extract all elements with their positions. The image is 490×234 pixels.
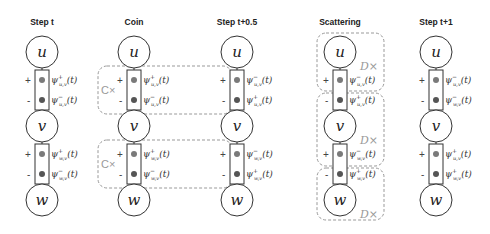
plus-sign: + <box>117 149 123 160</box>
plus-sign: + <box>323 75 329 86</box>
plus-port-dot <box>234 151 240 157</box>
vertex-label: v <box>432 117 441 135</box>
amplitude-label: ψ−u,v(t) <box>246 73 273 87</box>
column-4: Step t+1+-ψ−u,v(t)ψ−w,v(t)+-ψ+u,v(t)ψ+w,… <box>419 17 472 216</box>
vertex-label: u <box>37 43 47 61</box>
vertex-label: v <box>336 117 345 135</box>
plus-sign: + <box>25 149 31 160</box>
minus-sign: - <box>325 169 328 180</box>
column-title: Scattering <box>319 17 361 27</box>
amplitude-label: ψ+u,v(t) <box>246 93 273 107</box>
scattering-operator-label: D× <box>359 60 378 73</box>
plus-sign: + <box>323 149 329 160</box>
amplitude-label: ψ+w,v(t) <box>349 167 376 181</box>
minus-sign: - <box>119 95 122 106</box>
column-title: Step t <box>30 17 54 27</box>
plus-sign: + <box>419 75 425 86</box>
vertex-label: w <box>231 191 244 209</box>
minus-sign: - <box>27 95 30 106</box>
amplitude-label: ψ−u,v(t) <box>349 73 376 87</box>
amplitude-label: ψ−w,v(t) <box>143 167 170 181</box>
minus-sign: - <box>421 95 424 106</box>
vertex-label: w <box>36 191 49 209</box>
vertex-label: v <box>233 117 242 135</box>
plus-sign: + <box>220 75 226 86</box>
edge-port-box <box>35 144 49 184</box>
plus-port-dot <box>337 151 343 157</box>
amplitude-label: ψ−w,v(t) <box>51 167 78 181</box>
amplitude-label: ψ−u,v(t) <box>143 93 170 107</box>
vertex-label: v <box>38 117 47 135</box>
scattering-operator-label: D× <box>359 134 378 147</box>
scattering-operator-label: D× <box>359 208 378 221</box>
vertex-label: u <box>129 43 139 61</box>
vertex-label: w <box>430 191 443 209</box>
amplitude-label: ψ+w,v(t) <box>445 167 472 181</box>
minus-sign: - <box>27 169 30 180</box>
minus-sign: - <box>119 169 122 180</box>
vertex-label: w <box>334 191 347 209</box>
plus-sign: + <box>117 75 123 86</box>
plus-port-dot <box>39 77 45 83</box>
minus-sign: - <box>222 95 225 106</box>
amplitude-label: ψ+u,v(t) <box>143 73 170 87</box>
edge-port-box <box>429 144 443 184</box>
minus-port-dot <box>234 171 240 177</box>
plus-port-dot <box>131 77 137 83</box>
plus-port-dot <box>337 77 343 83</box>
plus-port-dot <box>131 151 137 157</box>
amplitude-label: ψ+w,v(t) <box>143 147 170 161</box>
amplitude-label: ψ−w,v(t) <box>445 93 472 107</box>
edge-port-box <box>429 70 443 110</box>
amplitude-label: ψ+w,v(t) <box>246 167 273 181</box>
amplitude-label: ψ+u,v(t) <box>349 93 376 107</box>
plus-port-dot <box>234 77 240 83</box>
amplitude-label: ψ+w,v(t) <box>51 147 78 161</box>
minus-port-dot <box>337 97 343 103</box>
plus-sign: + <box>25 75 31 86</box>
edge-port-box <box>127 70 141 110</box>
amplitude-label: ψ−u,v(t) <box>51 93 78 107</box>
plus-port-dot <box>433 77 439 83</box>
column-title: Step t+0.5 <box>217 17 258 27</box>
minus-port-dot <box>39 171 45 177</box>
edge-port-box <box>230 144 244 184</box>
minus-sign: - <box>325 95 328 106</box>
amplitude-label: ψ−w,v(t) <box>349 147 376 161</box>
plus-sign: + <box>220 149 226 160</box>
vertex-label: u <box>335 43 345 61</box>
edge-port-box <box>230 70 244 110</box>
minus-port-dot <box>39 97 45 103</box>
vertex-label: u <box>431 43 441 61</box>
column-title: Coin <box>125 17 144 27</box>
edge-port-box <box>333 70 347 110</box>
coin-operator-box <box>98 140 232 188</box>
vertex-label: w <box>128 191 141 209</box>
plus-port-dot <box>39 151 45 157</box>
minus-port-dot <box>433 97 439 103</box>
minus-sign: - <box>222 169 225 180</box>
column-2: Step t+0.5+-ψ−u,v(t)ψ+u,v(t)+-ψ−w,v(t)ψ+… <box>217 17 274 216</box>
plus-sign: + <box>419 149 425 160</box>
coin-operator-label: C× <box>101 84 115 96</box>
minus-port-dot <box>131 171 137 177</box>
column-0: Step t+-ψ+u,v(t)ψ−u,v(t)+-ψ+w,v(t)ψ−w,v(… <box>25 17 78 216</box>
edge-port-box <box>333 144 347 184</box>
edge-port-box <box>127 144 141 184</box>
amplitude-label: ψ+u,v(t) <box>445 147 472 161</box>
vertex-label: v <box>130 117 139 135</box>
amplitude-label: ψ+u,v(t) <box>51 73 78 87</box>
amplitude-label: ψ−u,v(t) <box>445 73 472 87</box>
minus-port-dot <box>433 171 439 177</box>
minus-port-dot <box>234 97 240 103</box>
minus-sign: - <box>421 169 424 180</box>
edge-port-box <box>35 70 49 110</box>
coin-operator-label: C× <box>101 158 115 170</box>
vertex-label: u <box>232 43 242 61</box>
amplitude-label: ψ−w,v(t) <box>246 147 273 161</box>
quantum-walk-diagram: Step t+-ψ+u,v(t)ψ−u,v(t)+-ψ+w,v(t)ψ−w,v(… <box>0 0 490 234</box>
coin-operator-box <box>98 66 232 114</box>
plus-port-dot <box>433 151 439 157</box>
column-1: CoinC×C×+-ψ+u,v(t)ψ−u,v(t)+-ψ+w,v(t)ψ−w,… <box>98 17 232 216</box>
column-title: Step t+1 <box>419 17 453 27</box>
